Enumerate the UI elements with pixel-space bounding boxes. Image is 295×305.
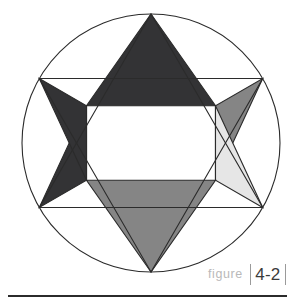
figure-caption: figure 4-2 (208, 264, 286, 285)
figure-caption-number: 4-2 (255, 266, 280, 283)
caption-right-bar (285, 264, 287, 285)
star-of-david-diagram (0, 0, 295, 305)
caption-left-bar (250, 264, 252, 285)
figure-number-group: 4-2 (250, 264, 286, 285)
figure-illustration: figure 4-2 (0, 0, 295, 305)
figure-caption-label: figure (208, 268, 243, 281)
bottom-divider-rule (8, 295, 287, 297)
